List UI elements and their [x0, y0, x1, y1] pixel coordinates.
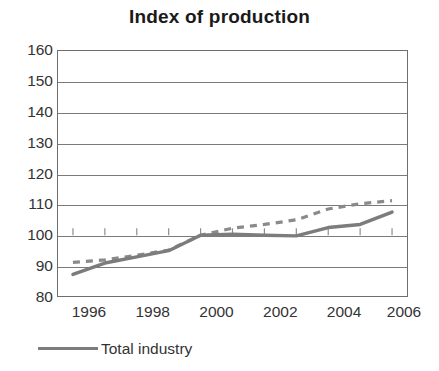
- x-tick-label: 1998: [135, 303, 169, 321]
- chart-legend: Total industry: [38, 341, 192, 357]
- legend-label-total-industry: Total industry: [101, 341, 192, 357]
- y-tick-label: 120: [5, 165, 53, 183]
- x-tick-label: 2000: [199, 303, 233, 321]
- x-tick-label: 2006: [387, 303, 421, 321]
- y-tick-label: 90: [5, 257, 53, 275]
- chart-container: Index of production 160 150 140 130 120 …: [0, 0, 439, 371]
- x-tick-label: 1996: [72, 303, 106, 321]
- y-tick-label: 130: [5, 134, 53, 152]
- y-tick-label: 110: [5, 195, 53, 213]
- y-tick-label: 100: [5, 226, 53, 244]
- chart-title: Index of production: [0, 6, 439, 28]
- series-layer: [57, 50, 408, 297]
- y-tick-label: 140: [5, 103, 53, 121]
- y-tick-label: 150: [5, 72, 53, 90]
- x-tick-label: 2004: [327, 303, 361, 321]
- series-line-total-industry: [73, 212, 392, 274]
- y-tick-label: 160: [5, 41, 53, 59]
- x-axis-labels: 1996 1998 2000 2002 2004 2006: [0, 303, 439, 325]
- legend-swatch-total-industry: [38, 347, 98, 350]
- x-tick-label: 2002: [263, 303, 297, 321]
